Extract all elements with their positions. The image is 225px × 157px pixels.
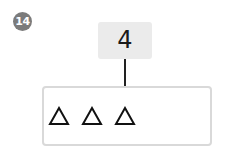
- top-number-box: 4: [98, 22, 152, 59]
- problem-number-badge: 14: [13, 12, 32, 31]
- top-number-value: 4: [117, 26, 132, 54]
- triangle-outline-icon: [48, 106, 70, 126]
- triangle-outline-icon: [114, 106, 136, 126]
- triangle-outline-icon: [81, 106, 103, 126]
- connector-line: [124, 59, 126, 86]
